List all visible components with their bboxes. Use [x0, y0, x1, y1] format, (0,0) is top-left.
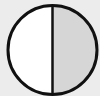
half-shaded-circle-diagram	[0, 0, 100, 96]
right-half-shaded	[53, 6, 98, 95]
left-half-unshaded	[8, 6, 53, 95]
